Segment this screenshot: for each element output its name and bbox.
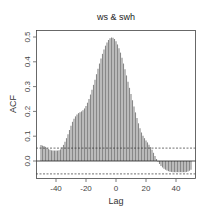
x-axis-label: Lag <box>108 196 123 206</box>
x-tick-label: -40 <box>50 184 62 193</box>
y-tick-label: 0.2 <box>23 105 32 117</box>
acf-bars <box>41 37 191 172</box>
y-tick-label: 0.1 <box>23 130 32 142</box>
y-tick-label: 0.3 <box>23 80 32 92</box>
chart-title: ws & swh <box>96 12 135 22</box>
x-tick-label: 40 <box>172 184 181 193</box>
acf-chart: ws & swh -40-2002040 0.00.10.20.30.40.5 … <box>0 0 207 218</box>
x-tick-label: 0 <box>114 184 119 193</box>
x-tick-label: 20 <box>142 184 151 193</box>
x-tick-label: -20 <box>80 184 92 193</box>
y-axis-label: ACF <box>8 94 18 113</box>
y-tick-label: 0.0 <box>23 155 32 167</box>
x-axis: -40-2002040 <box>50 179 181 193</box>
y-tick-label: 0.4 <box>23 56 32 68</box>
y-tick-label: 0.5 <box>23 31 32 43</box>
y-axis: 0.00.10.20.30.40.5 <box>23 31 36 167</box>
